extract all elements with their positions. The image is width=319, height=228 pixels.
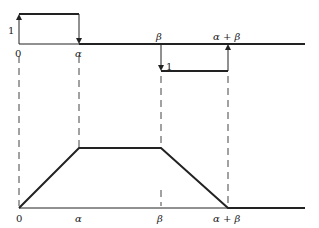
negative-pulse-height-label: 1 — [166, 61, 172, 72]
dashed-guides — [19, 56, 228, 206]
top-x-label-0: 0 — [15, 48, 21, 59]
pulse-height-label: 1 — [8, 25, 14, 36]
bottom-x-label-alpha: α — [75, 213, 82, 224]
bottom-x-label-0: 0 — [16, 213, 22, 224]
bottom-response-curve — [19, 148, 305, 208]
top-x-label-alpha: α — [75, 48, 82, 59]
top-x-label-alpha-plus-beta: α + β — [213, 31, 240, 42]
bottom-x-label-beta: β — [156, 213, 163, 224]
diagram-canvas: 1 1 0 α β α + β 0 α β α + β — [0, 0, 319, 228]
bottom-x-label-alpha-plus-beta: α + β — [213, 213, 240, 224]
top-input-pulses — [19, 14, 305, 71]
top-x-label-beta: β — [155, 31, 162, 42]
